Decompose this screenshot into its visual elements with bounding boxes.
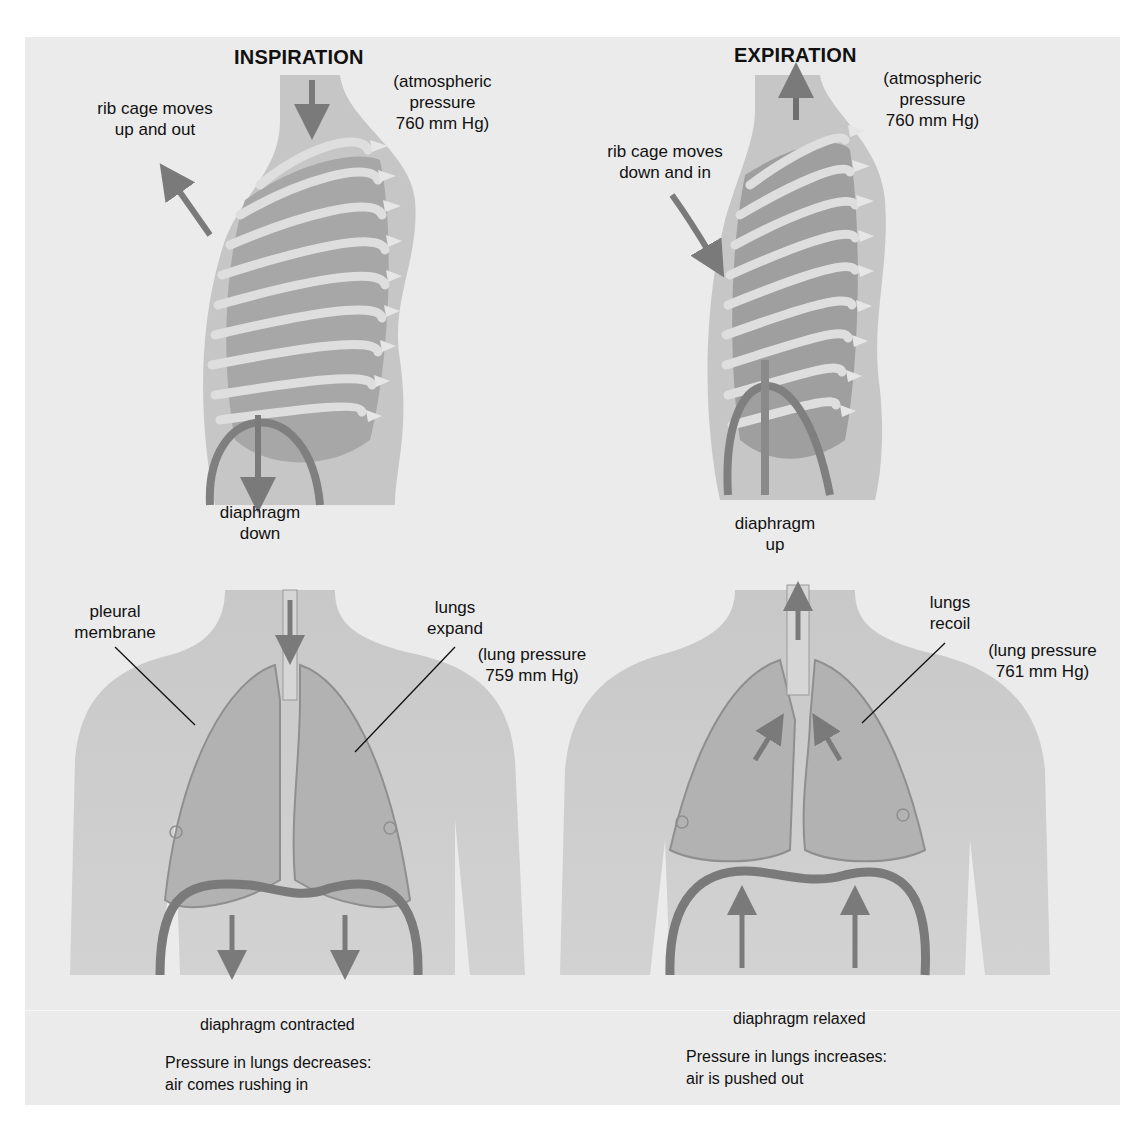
breathing-illustration — [0, 0, 1137, 1130]
expiration-atmospheric-label: (atmospheric pressure 760 mm Hg) — [870, 68, 995, 131]
inspiration-front-view — [70, 590, 525, 975]
inspiration-title: INSPIRATION — [234, 46, 364, 69]
expiration-diaphragm-state: diaphragm relaxed — [733, 1008, 866, 1030]
inspiration-diaphragm-state: diaphragm contracted — [200, 1014, 355, 1036]
inspiration-rib-label: rib cage moves up and out — [80, 98, 230, 140]
expiration-diaphragm-label: diaphragm up — [715, 513, 835, 555]
lungs-recoil-label: lungs recoil — [905, 592, 995, 634]
expiration-rib-label: rib cage moves down and in — [590, 141, 740, 183]
inspiration-lung-pressure-label: (lung pressure 759 mm Hg) — [462, 644, 602, 686]
expiration-side-view — [672, 75, 886, 500]
inspiration-summary: Pressure in lungs decreases: air comes r… — [165, 1052, 371, 1096]
rib-up-out-arrow-icon — [170, 178, 210, 235]
expiration-lung-pressure-label: (lung pressure 761 mm Hg) — [970, 640, 1115, 682]
inspiration-diaphragm-label: diaphragm down — [195, 502, 325, 544]
expiration-summary: Pressure in lungs increases: air is push… — [686, 1046, 887, 1090]
expiration-title: EXPIRATION — [734, 44, 857, 67]
inspiration-atmospheric-label: (atmospheric pressure 760 mm Hg) — [380, 71, 505, 134]
rib-down-in-arrow-icon — [672, 195, 715, 262]
lungs-expand-label: lungs expand — [410, 597, 500, 639]
pleural-membrane-label: pleural membrane — [60, 601, 170, 643]
